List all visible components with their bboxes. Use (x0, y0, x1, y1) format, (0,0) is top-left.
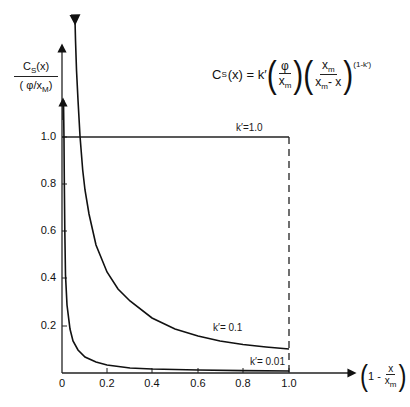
fraction-xm-over-xm-minus-x: xm xm- x (313, 58, 343, 91)
frac2-num-sub: m (328, 65, 335, 74)
formula: CS (x) = k′ ( φ xm ) ( xm xm- x ) (1-k′) (212, 58, 371, 91)
formula-sub-s: S (221, 70, 226, 79)
label-k-1.0: k′=1.0 (236, 122, 263, 133)
ytick-0.4: 0.4 (26, 271, 56, 283)
ylabel-den: ( φ/x (20, 79, 42, 91)
formula-c: C (212, 67, 221, 82)
ytick-0.8: 0.8 (26, 177, 56, 189)
paren-open-2: ( (303, 57, 313, 93)
label-k-0.1: k′= 0.1 (213, 322, 242, 333)
xlabel-paren-close: ) (399, 362, 407, 391)
xtick-1.0: 1.0 (274, 377, 304, 389)
xtick-0.4: 0.4 (137, 377, 167, 389)
frac2-den-rest: - x (328, 75, 341, 89)
ytick-0.2: 0.2 (26, 319, 56, 331)
xlabel-paren-open: ( (360, 362, 368, 391)
frac1-den-sub: m (285, 81, 292, 90)
y-axis-label: CS(x) ( φ/xM) (14, 60, 58, 94)
xtick-0.6: 0.6 (183, 377, 213, 389)
xtick-0.8: 0.8 (228, 377, 258, 389)
ytick-0.6: 0.6 (26, 224, 56, 236)
xlabel-fraction: x xm (383, 363, 399, 389)
ytick-1.0: 1.0 (26, 130, 56, 142)
xtick-0.2: 0.2 (92, 377, 122, 389)
ylabel-x: (x) (36, 60, 49, 72)
ylabel-den-close: ) (49, 79, 53, 91)
xlabel-num: x (386, 363, 395, 375)
fraction-phi-xm: φ xm (277, 59, 294, 90)
x-axis-label: ( 1 - x xm ) (360, 363, 407, 389)
label-k-0.01: k′= 0.01 (250, 356, 285, 367)
xtick-0: 0 (47, 377, 77, 389)
ylabel-c: C (23, 60, 31, 72)
paren-close-2: ) (343, 57, 353, 93)
paren-close-1: ) (293, 57, 303, 93)
formula-exponent: (1-k′) (353, 60, 371, 69)
formula-lhs-rest: (x) = k′ (228, 67, 267, 82)
ylabel-den-sub: M (42, 85, 49, 94)
xlabel-den-sub: m (390, 380, 397, 389)
paren-open-1: ( (267, 57, 277, 93)
xlabel-one-minus: 1 - (368, 370, 381, 382)
frac1-num: φ (279, 59, 291, 74)
series-k-0.01 (64, 100, 290, 371)
frac2-den-sub: m (321, 82, 328, 91)
